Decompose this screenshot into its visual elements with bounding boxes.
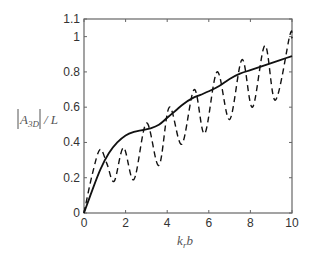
dashed-line-series [84,31,292,213]
x-tick-label: 0 [81,216,88,230]
y-axis-label: A3D / L [18,109,58,129]
x-tick-label: 2 [122,216,129,230]
y-tick-label: 1 [73,30,80,44]
axis-ticks: 024681000.20.40.60.811.1 [63,12,299,230]
y-tick-label: 0 [73,206,80,220]
y-tick-label: 0.8 [63,65,80,79]
y-tick-label: 1.1 [63,12,80,26]
y-tick-label: 0.4 [63,135,80,149]
svg-text:A3D: A3D [19,112,39,129]
solid-line-series [84,56,292,213]
x-axis-label: krb [177,233,193,250]
y-tick-label: 0.6 [63,100,80,114]
x-tick-label: 4 [164,216,171,230]
x-tick-label: 10 [285,216,299,230]
x-tick-label: 6 [205,216,212,230]
data-series [84,31,292,213]
y-tick-label: 0.2 [63,171,80,185]
svg-text:/ L: / L [43,112,58,127]
x-tick-label: 8 [247,216,254,230]
line-chart: 024681000.20.40.60.811.1 krb A3D / L [0,0,315,254]
